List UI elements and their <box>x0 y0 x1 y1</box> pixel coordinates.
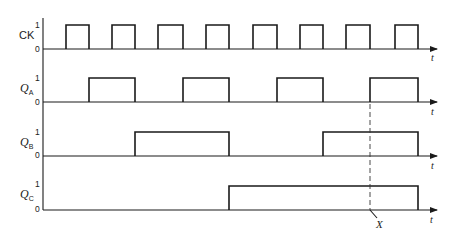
level-high-label: 1 <box>35 127 40 137</box>
signal-ck: CK 1 0 t <box>19 20 437 63</box>
signal-qc: QC 1 0 t <box>20 179 437 225</box>
time-label-ck: t <box>431 52 434 63</box>
marker-x: X <box>370 104 384 230</box>
level-high-label: 1 <box>35 20 40 30</box>
waveform-qb <box>135 132 418 156</box>
level-low-label: 0 <box>35 150 40 160</box>
signal-qa: QA 1 0 t <box>20 73 437 117</box>
level-high-label: 1 <box>35 73 40 83</box>
signal-label-qb: QB <box>20 135 34 150</box>
waveform-qc <box>229 186 418 210</box>
waveform-ck <box>66 25 418 49</box>
level-high-label: 1 <box>35 179 40 189</box>
level-low-label: 0 <box>35 204 40 214</box>
signal-qb: QB 1 0 t <box>20 127 437 171</box>
marker-label: X <box>375 218 384 230</box>
level-low-label: 0 <box>35 44 40 54</box>
time-label-qb: t <box>431 160 434 171</box>
time-label-qa: t <box>431 106 434 117</box>
timing-diagram: CK 1 0 t QA 1 0 t QB 1 0 t QC 1 0 t X <box>0 0 453 237</box>
signal-label-ck: CK <box>19 29 35 41</box>
signal-label-qa: QA <box>20 81 34 96</box>
level-low-label: 0 <box>35 97 40 107</box>
signal-label-qc: QC <box>20 187 34 202</box>
waveform-qa <box>89 78 418 102</box>
marker-leader-line <box>370 210 377 218</box>
time-label-qc: t <box>430 214 433 225</box>
